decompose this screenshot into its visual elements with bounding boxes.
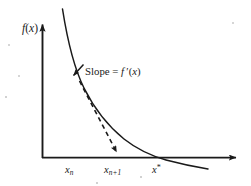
newtons-method-figure: f(x) Slope = f ′(x) xn xn+1 x* <box>0 0 251 186</box>
x-axis-label-x-star: x* <box>152 164 161 176</box>
x-axis-label-xn-plus-1: xn+1 <box>104 165 121 176</box>
y-axis-label: f(x) <box>22 23 38 35</box>
slope-annotation-label: Slope = f ′(x) <box>85 66 141 77</box>
axes-group <box>42 25 236 159</box>
tangent-line-dashed <box>80 81 117 152</box>
x-axis-label-xn: xn <box>65 165 73 176</box>
tangent-line-group <box>80 81 117 152</box>
